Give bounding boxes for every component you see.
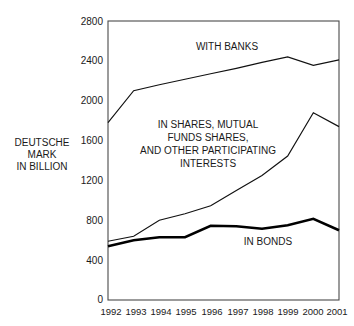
x-tick-label: 1996 bbox=[201, 306, 222, 317]
y-tick-label: 400 bbox=[86, 255, 103, 266]
y-tick-label: 2000 bbox=[81, 95, 104, 106]
y-axis-title-line: IN BILLION bbox=[16, 161, 67, 172]
x-tick-label: 2000 bbox=[302, 306, 323, 317]
y-tick-label: 800 bbox=[86, 215, 103, 226]
y-tick-label: 1600 bbox=[81, 135, 104, 146]
y-axis-tick-labels: 2800 2400 2000 1600 1200 800 400 0 bbox=[81, 16, 104, 306]
x-tick-label: 1997 bbox=[227, 306, 248, 317]
series-label-in-bonds: IN BONDS bbox=[244, 236, 293, 247]
x-axis-tick-labels: 1992 1993 1994 1995 1996 1997 1998 1999 … bbox=[100, 306, 347, 317]
x-tick-label: 1998 bbox=[252, 306, 273, 317]
x-tick-label: 1995 bbox=[175, 306, 196, 317]
series-line-in-bonds bbox=[108, 219, 339, 246]
series-label-in-shares-line3: AND OTHER PARTICIPATING bbox=[140, 145, 276, 156]
y-axis-title: DEUTSCHE MARK IN BILLION bbox=[14, 137, 69, 172]
y-tick-label: 1200 bbox=[81, 175, 104, 186]
y-tick-label: 2800 bbox=[81, 16, 104, 27]
y-axis-title-line: MARK bbox=[28, 149, 57, 160]
series-label-in-shares-line1: IN SHARES, MUTUAL bbox=[158, 119, 259, 130]
series-label-with-banks: WITH BANKS bbox=[196, 41, 259, 52]
y-tick-label: 2400 bbox=[81, 55, 104, 66]
x-tick-label: 1999 bbox=[277, 306, 298, 317]
x-tick-label: 2001 bbox=[326, 306, 347, 317]
y-axis-title-line: DEUTSCHE bbox=[14, 137, 69, 148]
x-tick-label: 1993 bbox=[125, 306, 146, 317]
chart-container: 2800 2400 2000 1600 1200 800 400 0 DEUTS… bbox=[0, 0, 354, 326]
series-label-in-shares-line4: INTERESTS bbox=[180, 158, 236, 169]
series-label-in-shares-line2: FUNDS SHARES, bbox=[167, 132, 248, 143]
x-tick-label: 1992 bbox=[100, 306, 121, 317]
line-chart: 2800 2400 2000 1600 1200 800 400 0 DEUTS… bbox=[0, 0, 354, 326]
series-annotations: WITH BANKS IN SHARES, MUTUAL FUNDS SHARE… bbox=[140, 41, 292, 247]
y-tick-label: 0 bbox=[97, 294, 103, 305]
x-tick-label: 1994 bbox=[150, 306, 171, 317]
series-line-with-banks bbox=[108, 57, 339, 123]
